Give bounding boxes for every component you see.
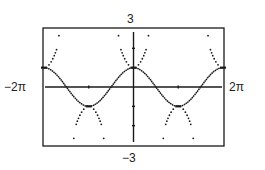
parabola-point <box>140 61 142 63</box>
parabola-point <box>97 114 99 116</box>
parabola-point <box>73 137 75 139</box>
parabola-point <box>79 114 81 116</box>
parabola-point <box>184 111 186 113</box>
parabola-point <box>213 58 215 60</box>
parabola-point <box>99 120 101 122</box>
parabola-point <box>122 55 124 57</box>
parabola-point <box>145 49 147 51</box>
parabola-point <box>125 61 127 63</box>
parabola-point <box>81 111 83 113</box>
parabola-point <box>162 137 164 139</box>
parabola-point <box>128 64 130 66</box>
parabola-point <box>98 117 100 119</box>
parabola-point <box>186 114 188 116</box>
parabola-point <box>207 35 209 37</box>
parabola-point <box>78 117 80 119</box>
parabola-point <box>121 52 123 54</box>
parabola-point <box>212 55 214 57</box>
parabola-point <box>217 64 219 66</box>
parabola-point <box>50 61 52 63</box>
parabola-point <box>54 52 56 54</box>
parabola-point <box>190 123 192 125</box>
parabola-point <box>182 108 184 110</box>
parabola-point <box>192 137 194 139</box>
parabola-point <box>93 108 95 110</box>
parabola-point <box>53 55 55 57</box>
parabola-point <box>143 55 145 57</box>
parabola-point <box>211 52 213 54</box>
parabola-point <box>215 61 217 63</box>
parabola-point <box>76 120 78 122</box>
parabola-point <box>210 49 212 51</box>
parabola-point <box>124 58 126 60</box>
calculator-graph <box>0 0 265 170</box>
parabola-point <box>83 108 85 110</box>
dotted-parabola <box>73 108 105 139</box>
parabola-point <box>52 58 54 60</box>
parabola-point <box>148 35 150 37</box>
parabola-point <box>120 49 122 51</box>
parabola-point <box>103 137 105 139</box>
parabola-point <box>165 123 167 125</box>
parabola-point <box>166 120 168 122</box>
parabola-point <box>58 35 60 37</box>
parabola-point <box>167 117 169 119</box>
parabola-point <box>189 120 191 122</box>
parabola-point <box>188 117 190 119</box>
dotted-parabola <box>48 35 60 66</box>
parabola-point <box>118 35 120 37</box>
parabola-point <box>75 123 77 125</box>
parabola-point <box>138 64 140 66</box>
dotted-parabola <box>207 35 219 66</box>
parabola-point <box>169 114 171 116</box>
parabola-point <box>170 111 172 113</box>
dotted-parabola <box>162 108 194 139</box>
parabola-point <box>144 52 146 54</box>
parabola-point <box>95 111 97 113</box>
parabola-point <box>100 123 102 125</box>
parabola-point <box>48 64 50 66</box>
parabola-point <box>172 108 174 110</box>
parabola-point <box>141 58 143 60</box>
parabola-point <box>56 49 58 51</box>
